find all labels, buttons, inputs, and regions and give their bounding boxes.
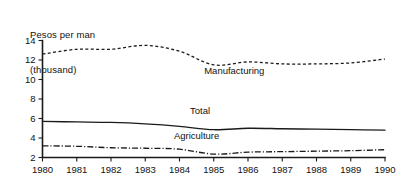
series-label-agriculture: Agriculture [174,130,219,141]
x-tick-label: 1985 [203,164,224,175]
series-line-total [43,121,386,130]
series-annotations: ManufacturingTotalAgriculture [174,65,264,142]
y-tick-label: 4 [30,132,35,143]
x-tick-label: 1988 [306,164,327,175]
y-tick-label: 10 [25,74,36,85]
series-label-total: Total [190,105,210,116]
series-label-manufacturing: Manufacturing [204,65,264,76]
x-tick-label: 1986 [237,164,258,175]
x-axis-ticks: 1980198119821983198419851986198719881989… [32,158,396,175]
series-line-agriculture [43,146,386,154]
x-tick-label: 1989 [340,164,361,175]
y-axis-ticks: 2468101214 [25,35,43,163]
x-tick-label: 1980 [32,164,53,175]
x-tick-label: 1987 [272,164,293,175]
x-tick-label: 1983 [135,164,156,175]
x-tick-label: 1982 [100,164,121,175]
chart-figure: Pesos per man (thousand) 2468101214 1980… [0,0,397,187]
x-tick-label: 1981 [66,164,87,175]
x-tick-label: 1990 [374,164,395,175]
series-line-manufacturing [43,45,386,65]
line-chart-plot: 2468101214 19801981198219831984198519861… [0,0,397,187]
y-tick-label: 6 [30,113,35,124]
y-tick-label: 8 [30,93,35,104]
y-tick-label: 14 [25,35,36,46]
y-tick-label: 2 [30,152,35,163]
y-tick-label: 12 [25,54,36,65]
x-tick-label: 1984 [169,164,190,175]
